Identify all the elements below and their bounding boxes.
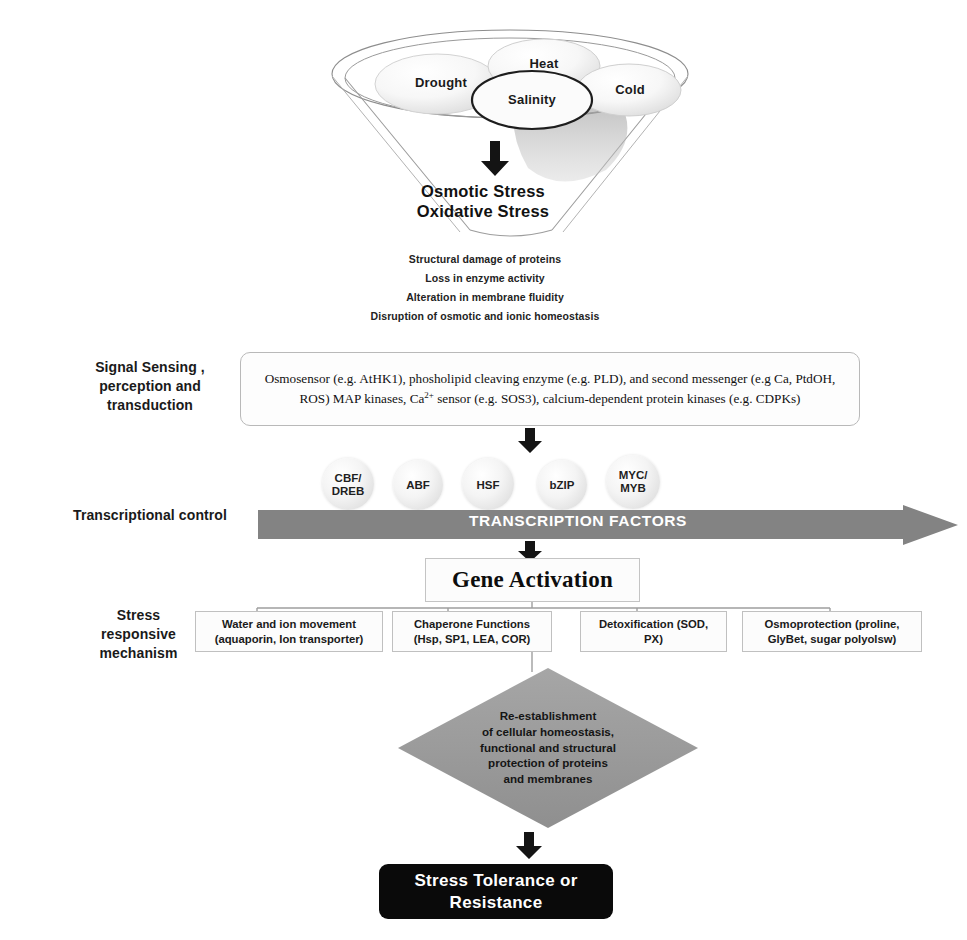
consequence-2: Loss in enzyme activity [275,269,695,288]
consequence-3: Alteration in membrane fluidity [275,288,695,307]
tf-label-hsf: HSF [458,479,518,492]
signal-sensing-box: Osmosensor (e.g. AtHK1), phosholipid cle… [240,352,860,426]
consequence-4: Disruption of osmotic and ionic homeosta… [275,307,695,326]
mechanism-box-osmoprotection: Osmoprotection (proline, GlyBet, sugar p… [742,611,922,652]
tf-label-abf: ABF [388,479,448,492]
outcome-to-final-arrow [514,832,544,860]
osmotic-stress-label: Osmotic Stress [333,182,633,201]
stage-label-transcriptional-control: Transcriptional control [60,506,240,525]
diagram-canvas: Drought Heat Salinity Cold Osmotic Stres… [0,0,967,940]
signal-text-superscript: 2+ [424,390,434,400]
stress-label-salinity: Salinity [502,92,562,107]
consequence-1: Structural damage of proteins [275,250,695,269]
mechanism-box-chaperone-functions: Chaperone Functions (Hsp, SP1, LEA, COR) [392,611,552,652]
funnel-cone-bottom [470,230,552,236]
stage-label-stress-responsive-mechanism: Stress responsive mechanism [76,606,201,663]
oxidative-stress-label: Oxidative Stress [333,202,633,221]
mechanism-box-detoxification: Detoxification (SOD, PX) [580,611,727,652]
signal-text-line3: CDPKs) [756,392,801,407]
outcome-diamond-label: Re-establishment of cellular homeostasis… [420,708,676,787]
stress-label-drought: Drought [401,75,481,90]
signal-text-line2b: sensor (e.g. SOS3), calcium-dependent pr… [434,392,753,407]
gene-activation-label: Gene Activation [452,567,613,593]
signal-sensing-text: Osmosensor (e.g. AtHK1), phosholipid cle… [255,370,845,408]
signal-text-line1: Osmosensor (e.g. AtHK1), phosholipid cle… [265,371,792,386]
tf-label-myc-myb: MYC/ MYB [603,469,663,495]
funnel-down-arrow [479,141,511,177]
stress-label-cold: Cold [600,82,660,97]
stress-label-heat: Heat [514,56,574,71]
tf-label-cbf-dreb: CBF/ DREB [318,472,378,498]
stage-label-signal-sensing: Signal Sensing , perception and transduc… [66,358,234,415]
mechanism-box-water-ion-movement: Water and ion movement (aquaporin, Ion t… [195,611,383,652]
tf-label-bzip: bZIP [532,479,592,492]
final-outcome-label: Stress Tolerance or Resistance [414,870,577,914]
transcription-factors-arrow-label: TRANSCRIPTION FACTORS [258,512,898,530]
gene-activation-box: Gene Activation [425,558,640,602]
signal-to-transcription-arrow [516,428,544,454]
final-outcome-box: Stress Tolerance or Resistance [379,864,613,919]
